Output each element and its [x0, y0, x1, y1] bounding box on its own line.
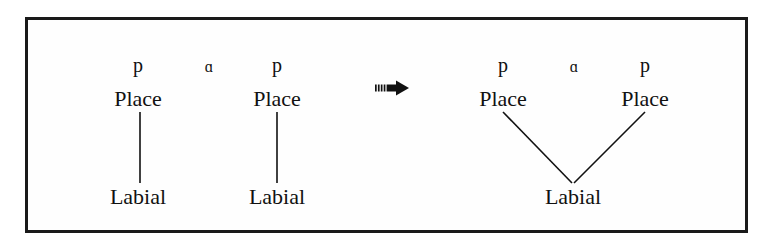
segment-p-right-1: p [498, 55, 508, 75]
segment-a-right: ɑ [570, 59, 578, 75]
segment-p-left-2: p [272, 55, 282, 75]
segment-a-left: ɑ [205, 59, 213, 75]
segment-p-right-2: p [640, 55, 650, 75]
segment-p-left-1: p [133, 55, 143, 75]
place-node-right-2: Place [621, 88, 669, 110]
place-node-left-2: Place [253, 88, 301, 110]
labial-node-left-1: Labial [110, 186, 166, 208]
figure-root: p ɑ p Place Place Labial Labial p ɑ p Pl… [0, 0, 771, 251]
place-node-right-1: Place [479, 88, 527, 110]
labial-node-left-2: Labial [249, 186, 305, 208]
labial-node-right-shared: Labial [545, 186, 601, 208]
place-node-left-1: Place [114, 88, 162, 110]
rightwards-arrow-icon [375, 80, 409, 96]
